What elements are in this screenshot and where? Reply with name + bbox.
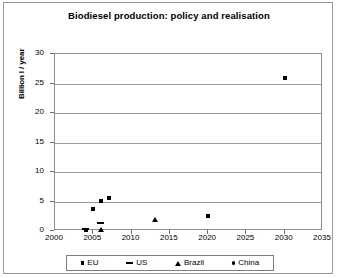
data-point-us (82, 228, 89, 230)
x-tick-label: 2030 (264, 234, 304, 242)
x-tick-mark (207, 230, 208, 234)
gridline (55, 202, 321, 203)
data-point-us (97, 222, 104, 224)
x-tick-label: 2010 (111, 234, 151, 242)
x-tick-label: 2025 (225, 234, 265, 242)
x-tick-label: 2005 (72, 234, 112, 242)
y-tick-mark (50, 230, 54, 231)
data-point-brazil (152, 217, 158, 222)
y-tick-label: 25 (20, 79, 44, 87)
gridline (55, 113, 321, 114)
chart-title: Biodiesel production: policy and realisa… (4, 10, 334, 21)
x-tick-label: 2035 (302, 234, 337, 242)
gridline (55, 172, 321, 173)
data-point-eu (91, 207, 95, 211)
square-marker-icon (81, 261, 85, 265)
y-tick-label: 5 (20, 197, 44, 205)
gridline (55, 143, 321, 144)
x-tick-label: 2020 (187, 234, 227, 242)
legend-label: US (136, 259, 147, 267)
plot-area (54, 53, 322, 230)
triangle-marker-icon (175, 261, 181, 266)
gridline (55, 84, 321, 85)
legend-label: Brazil (184, 259, 204, 267)
legend-item-china[interactable]: China (232, 259, 259, 267)
data-point-eu (99, 199, 103, 203)
chart-legend: EUUSBrazilChina (66, 255, 274, 271)
data-point-eu (206, 214, 210, 218)
legend-label: China (238, 259, 259, 267)
x-tick-mark (169, 230, 170, 234)
legend-item-eu[interactable]: EU (81, 259, 99, 267)
data-point-brazil (98, 227, 104, 232)
data-point-eu (107, 196, 111, 200)
y-tick-label: 10 (20, 167, 44, 175)
data-point-china (283, 76, 287, 80)
legend-item-brazil[interactable]: Brazil (175, 259, 204, 267)
x-tick-mark (92, 230, 93, 234)
y-tick-label: 30 (20, 49, 44, 57)
y-tick-label: 0 (20, 226, 44, 234)
chart-frame: Biodiesel production: policy and realisa… (3, 2, 333, 274)
dash-marker-icon (126, 262, 133, 264)
x-tick-mark (284, 230, 285, 234)
x-tick-label: 2015 (149, 234, 189, 242)
x-tick-mark (245, 230, 246, 234)
y-tick-label: 20 (20, 108, 44, 116)
dot-marker-icon (232, 261, 236, 265)
x-tick-mark (131, 230, 132, 234)
legend-label: EU (87, 259, 98, 267)
y-tick-label: 15 (20, 138, 44, 146)
x-tick-label: 2000 (34, 234, 74, 242)
legend-item-us[interactable]: US (126, 259, 147, 267)
